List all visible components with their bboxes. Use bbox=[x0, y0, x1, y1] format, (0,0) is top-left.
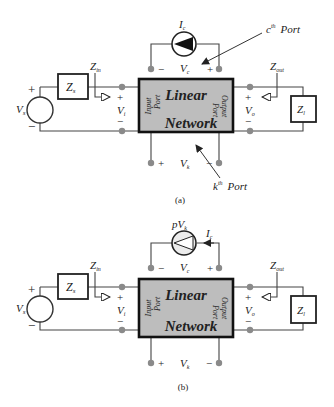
svg-text:Output: Output bbox=[220, 297, 229, 320]
source-label-a: Vs bbox=[16, 103, 26, 117]
vi-plus-b: + bbox=[117, 291, 123, 303]
ic-label-b: Ic bbox=[205, 227, 213, 240]
z-out-arrow-b bbox=[262, 272, 277, 297]
output-node-minus-a[interactable] bbox=[247, 128, 253, 134]
vc-label-a: Vc bbox=[180, 62, 190, 75]
diagram-b: + − Vs Zs Zin + − Vi Linear Network Inpu… bbox=[16, 218, 316, 392]
vi-label-b: Vi bbox=[117, 304, 126, 317]
z-in-arrow-a bbox=[95, 73, 110, 97]
network-line2-a: Network bbox=[164, 115, 218, 131]
load-impedance-b bbox=[291, 296, 316, 323]
circuit-figure: + − Vs Zs Zin + − Vi Linear Network Inpu… bbox=[0, 0, 334, 407]
network-line2-b: Network bbox=[164, 318, 218, 334]
vk-minus-b: − bbox=[206, 357, 212, 369]
z-in-label-b: Zin bbox=[90, 259, 101, 272]
top-node-minus-a[interactable] bbox=[148, 66, 154, 72]
input-port-wire-a bbox=[122, 87, 139, 131]
svg-text:Port: Port bbox=[153, 94, 162, 110]
source-plus-a: + bbox=[28, 82, 35, 97]
svg-text:Port: Port bbox=[211, 102, 220, 118]
z-out-label-a: Zout bbox=[270, 60, 284, 73]
top-node-plus-a[interactable] bbox=[216, 66, 222, 72]
vo-plus-b: + bbox=[245, 291, 251, 303]
caption-b: (b) bbox=[178, 382, 189, 392]
vc-minus-b: − bbox=[158, 262, 164, 274]
caption-a: (a) bbox=[175, 195, 185, 205]
vc-plus-a: + bbox=[207, 63, 213, 75]
pvk-label-b: pVk bbox=[171, 218, 187, 231]
svg-text:Input: Input bbox=[144, 299, 153, 318]
bottom-node-minus-a[interactable] bbox=[216, 160, 222, 166]
input-node-plus-a[interactable] bbox=[119, 84, 125, 90]
vk-plus-b: + bbox=[158, 357, 164, 369]
vo-minus-b: − bbox=[245, 315, 251, 327]
source-plus-b: + bbox=[28, 282, 35, 297]
input-port-wire-b bbox=[122, 287, 139, 330]
z-out-label-b: Zout bbox=[270, 259, 284, 272]
bottom-node-plus-b[interactable] bbox=[148, 360, 154, 366]
top-node-minus-b[interactable] bbox=[148, 265, 154, 271]
vk-label-a: Vk bbox=[180, 157, 190, 170]
svg-text:Port: Port bbox=[153, 296, 162, 312]
input-node-plus-b[interactable] bbox=[119, 284, 125, 290]
vi-minus-b: − bbox=[117, 315, 123, 327]
svg-text:Output: Output bbox=[220, 95, 229, 118]
source-label-b: Vs bbox=[16, 302, 26, 316]
vo-plus-a: + bbox=[245, 91, 251, 103]
bottom-node-minus-b[interactable] bbox=[216, 360, 222, 366]
z-in-label-a: Zin bbox=[90, 60, 101, 73]
source-minus-a: − bbox=[28, 119, 35, 134]
input-node-minus-a[interactable] bbox=[119, 128, 125, 134]
vi-minus-a: − bbox=[117, 115, 123, 127]
svg-text:Input: Input bbox=[144, 97, 153, 116]
vk-plus-a: + bbox=[158, 157, 164, 169]
z-out-arrow-a bbox=[262, 73, 277, 97]
vc-minus-a: − bbox=[158, 63, 164, 75]
input-node-minus-b[interactable] bbox=[119, 327, 125, 333]
vo-minus-a: − bbox=[245, 115, 251, 127]
output-node-plus-b[interactable] bbox=[247, 284, 253, 290]
c-port-arrow-a bbox=[202, 33, 262, 64]
vc-plus-b: + bbox=[207, 262, 213, 274]
k-port-label-a: kthPort bbox=[213, 180, 248, 192]
vi-plus-a: + bbox=[117, 91, 123, 103]
vo-label-b: Vo bbox=[245, 304, 255, 317]
load-impedance-a bbox=[291, 96, 316, 122]
c-port-label-a: cthPort bbox=[266, 23, 301, 35]
vo-label-a: Vo bbox=[245, 104, 255, 117]
diagram-a: + − Vs Zs Zin + − Vi Linear Network Inpu… bbox=[16, 18, 316, 205]
output-node-minus-b[interactable] bbox=[247, 327, 253, 333]
network-line1-a: Linear bbox=[164, 87, 207, 103]
output-node-plus-a[interactable] bbox=[247, 84, 253, 90]
vi-label-a: Vi bbox=[117, 104, 126, 117]
network-line1-b: Linear bbox=[164, 287, 207, 303]
vc-label-b: Vc bbox=[180, 261, 190, 274]
svg-text:Port: Port bbox=[211, 304, 220, 320]
source-minus-b: − bbox=[28, 318, 35, 333]
bottom-node-plus-a[interactable] bbox=[148, 160, 154, 166]
vk-label-b: Vk bbox=[180, 357, 190, 370]
ic-label-a: Ic bbox=[178, 18, 186, 31]
top-node-plus-b[interactable] bbox=[216, 265, 222, 271]
z-in-arrow-b bbox=[95, 272, 110, 297]
